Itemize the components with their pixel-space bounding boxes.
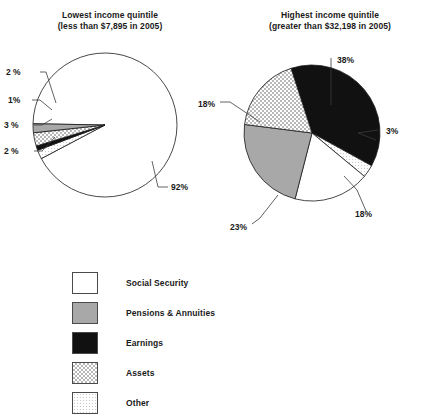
pie-value-label: 18% [355, 209, 372, 219]
legend-label-pensions-annuities: Pensions & Annuities [126, 308, 215, 318]
legend-swatch-pensions-annuities [72, 302, 98, 324]
legend-label-social-security: Social Security [126, 278, 188, 288]
chart-title-highest-line1: Highest income quintile [281, 10, 379, 20]
chart-legend: Social Security Pensions & Annuities Ear… [72, 268, 372, 418]
pie-value-label: 3 % [4, 120, 19, 130]
legend-label-assets: Assets [126, 368, 154, 378]
legend-swatch-assets [72, 362, 98, 384]
chart-title-lowest-line1: Lowest income quintile [62, 10, 158, 20]
legend-item-assets: Assets [72, 358, 372, 388]
chart-title-lowest: Lowest income quintile (less than $7,895… [30, 10, 190, 32]
pie-value-label: 1% [8, 95, 21, 105]
legend-swatch-social-security [72, 272, 98, 294]
pie-value-label: 38% [337, 55, 354, 65]
legend-item-pensions-annuities: Pensions & Annuities [72, 298, 372, 328]
pie-chart-highest: 38%3%18%23%18% [190, 30, 434, 245]
pie-value-label: 2 % [4, 146, 19, 156]
legend-item-other: Other [72, 388, 372, 418]
legend-label-earnings: Earnings [126, 338, 163, 348]
chart-title-highest: Highest income quintile (greater than $3… [240, 10, 420, 32]
chart-title-lowest-line2: (less than $7,895 in 2005) [30, 21, 190, 32]
legend-item-earnings: Earnings [72, 328, 372, 358]
legend-item-social-security: Social Security [72, 268, 372, 298]
pie-value-label: 2 % [6, 67, 21, 77]
charts-container: Lowest income quintile (less than $7,895… [0, 0, 434, 250]
pie-leader-line [252, 195, 278, 224]
pie-value-label: 92% [171, 182, 188, 192]
pie-value-label: 18% [198, 99, 215, 109]
legend-swatch-other [72, 392, 98, 414]
legend-label-other: Other [126, 398, 149, 408]
legend-swatch-earnings [72, 332, 98, 354]
pie-value-label: 3% [386, 126, 399, 136]
pie-chart-lowest: 92%2 %1%3 %2 % [0, 40, 215, 230]
pie-value-label: 23% [230, 222, 247, 232]
